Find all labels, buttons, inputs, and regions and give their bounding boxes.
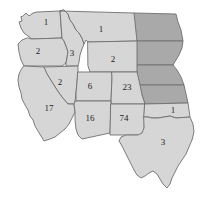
state-north-dakota[interactable] (134, 13, 183, 41)
choropleth-map: 1 2 3 1 2 2 17 6 23 16 74 3 1 (0, 0, 202, 215)
state-arizona[interactable] (74, 101, 111, 139)
state-new-mexico[interactable] (110, 104, 145, 135)
state-utah[interactable] (76, 72, 112, 101)
state-south-dakota[interactable] (137, 41, 183, 65)
map-canvas: 1 2 3 1 2 2 17 6 23 16 74 3 1 (0, 0, 202, 215)
state-washington[interactable] (19, 11, 62, 39)
state-kansas[interactable] (140, 85, 188, 104)
state-wyoming[interactable] (88, 41, 137, 72)
state-oklahoma[interactable] (144, 103, 190, 118)
state-oregon[interactable] (18, 38, 68, 66)
state-nebraska[interactable] (137, 65, 184, 85)
